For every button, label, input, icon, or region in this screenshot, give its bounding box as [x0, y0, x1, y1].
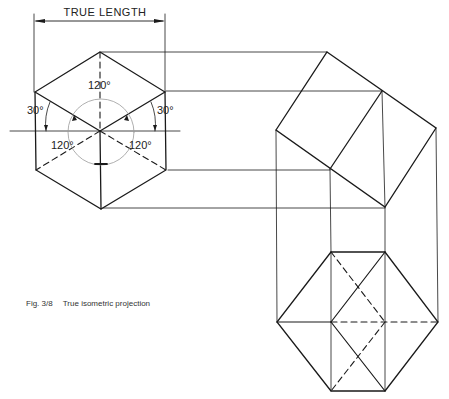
caption-text: True isometric projection — [63, 299, 150, 308]
true-length-label: TRUE LENGTH — [55, 6, 155, 18]
figure-number: Fig. 3/8 — [26, 299, 53, 308]
projected-hexagon-view — [277, 252, 438, 391]
angle-label-right-30: 30° — [157, 104, 174, 116]
angle-label-top-120: 120° — [88, 79, 111, 91]
angle-label-lower-left-120: 120° — [51, 139, 74, 151]
figure-caption: Fig. 3/8 True isometric projection — [26, 299, 150, 308]
angle-label-left-30: 30° — [27, 104, 44, 116]
isometric-projection-drawing — [0, 0, 449, 399]
projection-lines-horizontal — [101, 52, 385, 208]
rotated-cube-view — [276, 52, 436, 207]
isometric-hexagon-view — [10, 52, 180, 209]
projection-lines-vertical — [276, 128, 438, 322]
angle-label-lower-right-120: 120° — [129, 139, 152, 151]
